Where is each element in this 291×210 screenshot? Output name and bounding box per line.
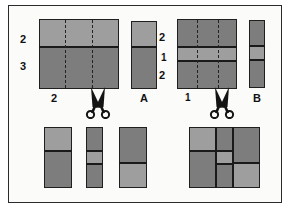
left-rect-dashed-line-2 (92, 20, 93, 88)
pinwheel-middle-divider-2 (216, 163, 233, 165)
pinwheel-left-band-2 (189, 151, 216, 188)
right-rect-divider-1 (177, 46, 237, 48)
left-rect-band-top (39, 19, 119, 47)
pinwheel-vertical-divider-1 (215, 127, 217, 188)
pinwheel-middle-band-3 (216, 164, 233, 188)
pinwheel-middle-band-1 (216, 127, 233, 151)
right-row-label-top: 2 (159, 32, 165, 43)
pinwheel-left-divider (189, 150, 216, 152)
bottom-strip-1-band-2 (44, 151, 72, 188)
pinwheel-left-band-1 (189, 127, 216, 151)
left-rect-band-bottom (39, 47, 119, 89)
right-row-label-bottom: 2 (159, 70, 165, 81)
bottom-strip-1-band-1 (44, 127, 72, 151)
right-rect-band-bottom (177, 61, 237, 89)
bottom-strip-2-band-1 (86, 127, 103, 151)
bottom-strip-2-divider-1 (86, 150, 103, 152)
right-rect-band-middle (177, 47, 237, 61)
strip-B-label: B (253, 93, 261, 104)
strip-A-label: A (140, 93, 148, 104)
pinwheel-vertical-divider-2 (232, 127, 234, 188)
pinwheel-right-divider (233, 162, 260, 164)
bottom-strip-3-divider (119, 162, 147, 164)
scissors-icon (207, 86, 237, 119)
right-rect-bottom-label: 1 (185, 93, 191, 103)
strip-A-band-2 (131, 47, 157, 89)
left-row-label-bottom: 3 (20, 61, 26, 72)
strip-B-divider-1 (249, 45, 265, 47)
left-row-label-top: 2 (20, 34, 26, 45)
right-row-label-middle: 1 (161, 53, 167, 63)
bottom-strip-2-band-3 (86, 164, 103, 188)
strip-B-divider-2 (249, 59, 265, 61)
pinwheel-right-band-1 (233, 127, 260, 163)
fraction-cutting-diagram: 2 3 2 A 2 1 2 (0, 0, 291, 210)
scissors-icon (83, 86, 113, 119)
bottom-strip-2-divider-2 (86, 163, 103, 165)
strip-B-band-2 (249, 46, 265, 60)
right-rect-dashed-line-1 (197, 20, 198, 88)
bottom-strip-1-divider (44, 150, 72, 152)
strip-B-band-3 (249, 60, 265, 88)
left-rect-bottom-label: 2 (51, 93, 57, 104)
right-rect-divider-2 (177, 60, 237, 62)
right-rect-band-top (177, 19, 237, 47)
strip-A-band-1 (131, 21, 157, 47)
strip-A-divider (131, 46, 157, 48)
right-rect-dashed-line-2 (218, 20, 219, 88)
bottom-strip-3-band-2 (119, 163, 147, 188)
bottom-strip-3-band-1 (119, 127, 147, 163)
pinwheel-middle-divider-1 (216, 150, 233, 152)
pinwheel-right-band-2 (233, 163, 260, 188)
left-rect-horizontal-divider (39, 46, 119, 48)
left-rect-dashed-line-1 (65, 20, 66, 88)
strip-B-band-1 (249, 20, 265, 46)
diagram-frame: 2 3 2 A 2 1 2 (8, 5, 282, 203)
